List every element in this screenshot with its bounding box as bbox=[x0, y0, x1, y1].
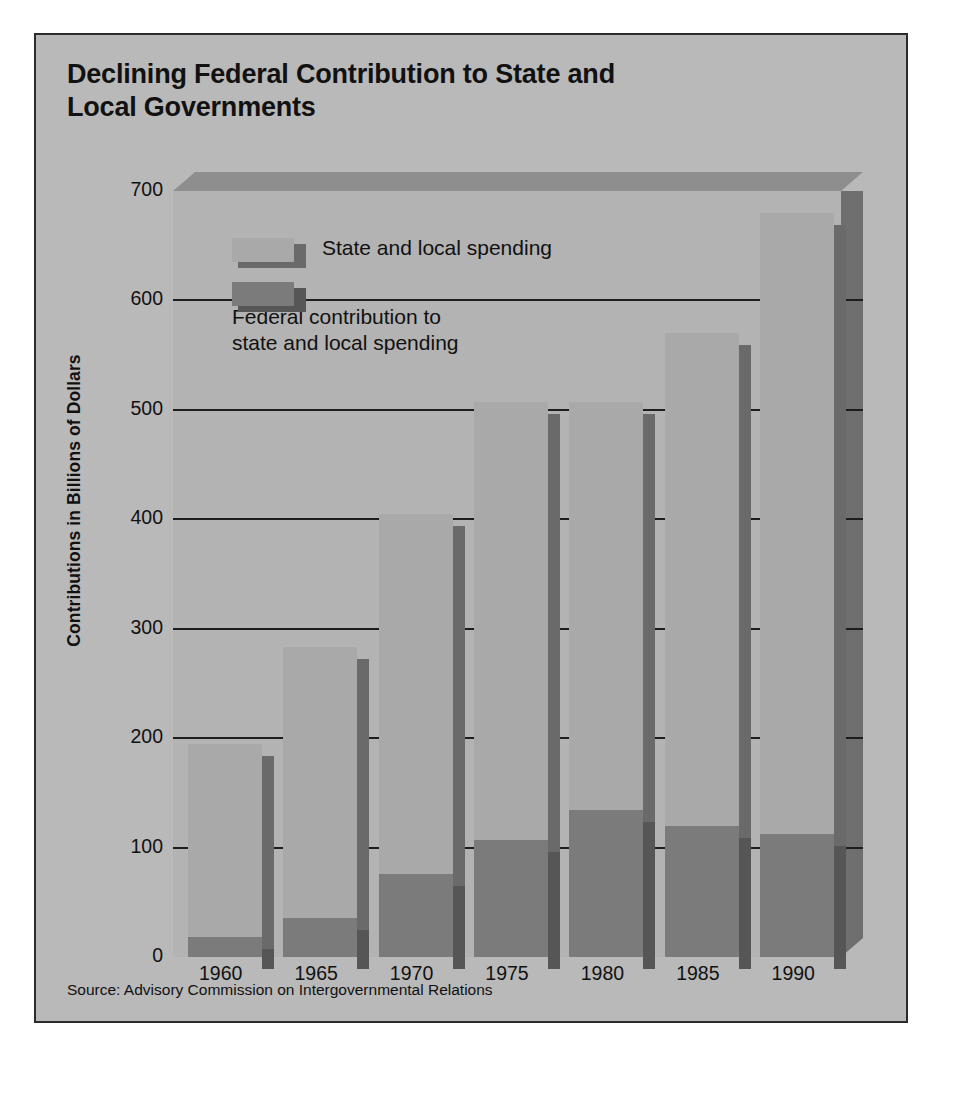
y-axis-tick: 400 bbox=[43, 506, 163, 529]
legend-item-state-local: State and local spending bbox=[232, 235, 662, 260]
plot-top-face bbox=[173, 172, 863, 191]
page-title: Declining Federal Contribution to State … bbox=[67, 58, 767, 124]
chart-legend: State and local spending Federal contrib… bbox=[232, 235, 662, 374]
bar-federal-contribution[interactable] bbox=[188, 937, 262, 957]
bar-state-local-spending[interactable] bbox=[188, 744, 262, 957]
bar-shadow bbox=[548, 852, 560, 969]
bar-federal-contribution[interactable] bbox=[283, 918, 357, 957]
legend-label-state-local: State and local spending bbox=[322, 236, 552, 259]
bar-shadow bbox=[453, 886, 465, 969]
y-axis-tick: 200 bbox=[43, 725, 163, 748]
legend-label-federal-line-2: state and local spending bbox=[232, 330, 662, 355]
bar-federal-contribution[interactable] bbox=[379, 874, 453, 957]
bar-column[interactable] bbox=[760, 191, 834, 957]
y-axis-tick: 300 bbox=[43, 616, 163, 639]
x-axis-tick: 1985 bbox=[650, 962, 745, 985]
y-axis-tick: 600 bbox=[43, 287, 163, 310]
bar-shadow bbox=[262, 756, 274, 969]
bar-federal-contribution[interactable] bbox=[760, 834, 834, 957]
bar-shadow bbox=[643, 822, 655, 969]
bar-shadow bbox=[739, 838, 751, 969]
bar-state-local-spending[interactable] bbox=[283, 647, 357, 957]
y-axis-tick: 700 bbox=[43, 178, 163, 201]
chart-page: Declining Federal Contribution to State … bbox=[0, 0, 976, 1097]
legend-swatch-state-local bbox=[232, 238, 306, 268]
y-axis-tick: 100 bbox=[43, 835, 163, 858]
bar-shadow bbox=[834, 846, 846, 969]
x-axis-tick: 1980 bbox=[555, 962, 650, 985]
y-axis-tick: 0 bbox=[43, 944, 163, 967]
legend-swatch-federal bbox=[232, 282, 306, 312]
chart-card: Declining Federal Contribution to State … bbox=[34, 33, 908, 1023]
chart-title-line-2: Local Governments bbox=[67, 91, 767, 124]
chart-title-line-1: Declining Federal Contribution to State … bbox=[67, 58, 767, 91]
bar-column[interactable] bbox=[665, 191, 739, 957]
x-axis-tick: 1990 bbox=[746, 962, 841, 985]
y-axis-tick-labels: 7006005004003002001000 bbox=[32, 172, 163, 972]
legend-item-federal: Federal contribution tostate and local s… bbox=[232, 279, 662, 355]
bar-federal-contribution[interactable] bbox=[474, 840, 548, 957]
y-axis-tick: 500 bbox=[43, 397, 163, 420]
bar-shadow bbox=[357, 659, 369, 969]
bar-federal-contribution[interactable] bbox=[569, 810, 643, 957]
source-note: Source: Advisory Commission on Intergove… bbox=[67, 981, 493, 999]
bar-federal-contribution[interactable] bbox=[665, 826, 739, 957]
